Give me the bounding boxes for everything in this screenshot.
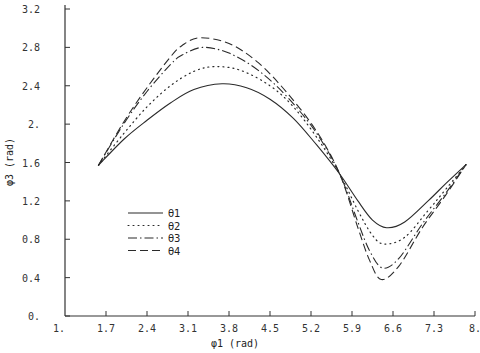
x-tick-label: 3.8 [220,323,238,334]
y-tick-label: 2.4 [22,81,40,92]
series-line-1 [98,84,466,228]
x-tick-label: 6.6 [384,323,402,334]
legend-label-3: θ3 [168,233,180,244]
x-tick-label: 5.2 [302,323,320,334]
x-tick-label: 1. [53,323,65,334]
x-tick-label: 2.4 [138,323,156,334]
y-tick-label: 1.6 [22,158,40,169]
y-tick-label: 2. [28,119,40,130]
legend-label-2: θ2 [168,221,180,232]
y-tick-label: 0.4 [22,273,40,284]
x-tick-label: 1.7 [97,323,115,334]
legend-label-1: θ1 [168,208,180,219]
y-axis-label: φ3 (rad) [4,138,15,186]
y-tick-label: 0.8 [22,234,40,245]
x-tick-label: 8. [469,323,480,334]
x-tick-label: 4.5 [261,323,279,334]
line-chart: 0.0.40.81.21.62.2.42.83.21.1.72.43.13.84… [0,0,480,353]
y-tick-label: 1.2 [22,196,40,207]
legend-label-4: θ4 [168,246,180,257]
x-axis-label: φ1 (rad) [211,338,259,349]
x-tick-label: 3.1 [179,323,197,334]
series-line-3 [98,47,466,268]
y-tick-label: 0. [28,311,40,322]
y-tick-label: 2.8 [22,42,40,53]
x-tick-label: 5.9 [343,323,361,334]
legend: θ1θ2θ3θ4 [128,208,180,257]
axes: 0.0.40.81.21.62.2.42.83.21.1.72.43.13.84… [22,4,480,334]
y-tick-label: 3.2 [22,4,40,15]
series-line-4 [98,38,466,280]
series-layer [98,38,466,280]
x-tick-label: 7.3 [425,323,443,334]
